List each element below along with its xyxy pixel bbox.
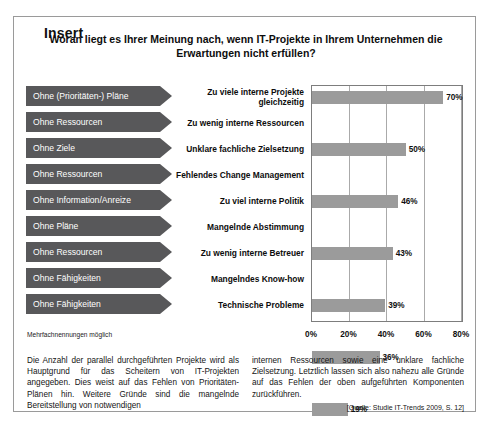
category-label: Zu wenig interne Ressourcen: [176, 110, 304, 136]
chart-row: Ohne ZieleUnklare fachliche Zielsetzung4…: [0, 136, 491, 162]
cause-tag-label: Ohne (Prioritäten-) Pläne: [33, 86, 129, 106]
chart-row: Ohne (Prioritäten-) PläneZu viele intern…: [0, 84, 491, 110]
cause-tag-label: Ohne Fähigkeiten: [33, 268, 101, 288]
cause-tag-label: Ohne Ressourcen: [33, 242, 102, 262]
x-tick-label: 40%: [366, 330, 406, 339]
x-tick-label: 20%: [329, 330, 369, 339]
cause-tag: Ohne Pläne: [26, 216, 172, 236]
cause-tag-label: Ohne Pläne: [33, 216, 78, 236]
chart-row: Ohne FähigkeitenTechnische Probleme7%: [0, 292, 491, 318]
chart-row: Ohne RessourcenFehlendes Change Manageme…: [0, 162, 491, 188]
category-label: Technische Probleme: [176, 292, 304, 318]
category-label: Zu viel interne Politik: [176, 188, 304, 214]
category-label: Fehlendes Change Management: [176, 162, 304, 188]
cause-tag: Ohne Fähigkeiten: [26, 294, 172, 314]
body-column-right: internen Ressourcen sowie eine unklare f…: [252, 355, 464, 413]
bar: [312, 91, 443, 104]
body-right-paragraph: internen Ressourcen sowie eine unklare f…: [252, 355, 464, 400]
chart-area: Ohne (Prioritäten-) PläneZu viele intern…: [0, 84, 491, 330]
cause-tag-label: Ohne Information/Anreize: [33, 190, 131, 210]
cause-tag-label: Ohne Ressourcen: [33, 112, 102, 132]
cause-tag: Ohne Ressourcen: [26, 164, 172, 184]
bar-value-label: 70%: [446, 91, 462, 104]
category-label: Mangelnde Abstimmung: [176, 214, 304, 240]
category-label: Zu viele interne Projekte gleichzeitig: [176, 84, 304, 110]
category-label: Zu wenig interne Betreuer: [176, 240, 304, 266]
chart-row: Ohne PläneMangelnde Abstimmung36%: [0, 214, 491, 240]
category-label: Unklare fachliche Zielsetzung: [176, 136, 304, 162]
x-tick-label: 0%: [291, 330, 331, 339]
cause-tag: Ohne (Prioritäten-) Pläne: [26, 86, 172, 106]
cause-tag-label: Ohne Ziele: [33, 138, 75, 158]
chart-row: Ohne FähigkeitenMangelndes Know-how15%: [0, 266, 491, 292]
cause-tag: Ohne Fähigkeiten: [26, 268, 172, 288]
chart-title: Woran liegt es Ihrer Meinung nach, wenn …: [48, 33, 444, 60]
cause-tag-label: Ohne Ressourcen: [33, 164, 102, 184]
x-tick-label: 60%: [404, 330, 444, 339]
cause-tag: Ohne Ziele: [26, 138, 172, 158]
source-citation: [Quelle: Studie IT-Trends 2009, S. 12]: [252, 402, 464, 413]
x-tick-label: 80%: [441, 330, 481, 339]
chart-row: Ohne Information/AnreizeZu viel interne …: [0, 188, 491, 214]
cause-tag: Ohne Ressourcen: [26, 112, 172, 132]
chart-row: Ohne RessourcenZu wenig interne Betreuer…: [0, 240, 491, 266]
cause-tag: Ohne Ressourcen: [26, 242, 172, 262]
chart-row: Ohne RessourcenZu wenig interne Ressourc…: [0, 110, 491, 136]
bar-group: 70%: [312, 91, 463, 104]
body-text: Die Anzahl der parallel durchgeführten P…: [27, 355, 464, 413]
body-column-left: Die Anzahl der parallel durchgeführten P…: [27, 355, 239, 413]
cause-tag-label: Ohne Fähigkeiten: [33, 294, 101, 314]
category-label: Mangelndes Know-how: [176, 266, 304, 292]
cause-tag: Ohne Information/Anreize: [26, 190, 172, 210]
chart-footnote: Mehrfachnennungen möglich: [27, 331, 112, 338]
